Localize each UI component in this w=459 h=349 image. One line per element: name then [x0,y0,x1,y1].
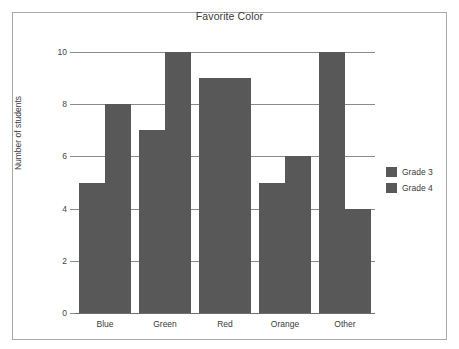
y-axis-tick-labels: 1086420 [33,52,67,313]
bar-other-grade-4 [345,209,371,313]
legend-label: Grade 4 [402,183,433,193]
y-axis-title: Number of students [13,48,23,218]
bar-blue-grade-4 [105,104,131,313]
bar-orange-grade-3 [259,183,285,314]
y-axis-tick-label-6: 6 [33,151,67,161]
y-axis-tick-label-10: 10 [33,47,67,57]
plot-area [75,52,375,313]
y-axis-tick-4 [70,209,75,210]
y-axis-tick-label-4: 4 [33,204,67,214]
x-axis-tick-label-blue: Blue [96,319,113,329]
bar-green-grade-4 [165,52,191,313]
bar-other-grade-3 [319,52,345,313]
legend-swatch-icon [386,167,397,177]
legend-item-grade-4[interactable]: Grade 4 [386,181,448,195]
bar-blue-grade-3 [79,183,105,314]
bar-orange-grade-4 [285,156,311,313]
x-axis-tick-label-green: Green [153,319,177,329]
bar-green-grade-3 [139,130,165,313]
y-axis-tick-10 [70,52,75,53]
x-axis-tick-label-orange: Orange [271,319,299,329]
y-axis-tick-8 [70,104,75,105]
x-axis-tick-label-red: Red [217,319,233,329]
legend-swatch-icon [386,183,397,193]
chart-legend: Grade 3Grade 4 [386,165,448,197]
x-axis-tick-label-other: Other [334,319,355,329]
y-axis-tick-label-8: 8 [33,99,67,109]
legend-label: Grade 3 [402,167,433,177]
bar-red-grade-4 [225,78,251,313]
y-axis-tick-label-0: 0 [33,308,67,318]
y-axis-tick-label-2: 2 [33,256,67,266]
legend-item-grade-3[interactable]: Grade 3 [386,165,448,179]
y-axis-tick-2 [70,261,75,262]
y-axis-tick-0 [70,313,75,314]
chart-title: Favorite Color [0,10,459,22]
x-axis-line [75,313,375,314]
bar-red-grade-3 [199,78,225,313]
y-axis-tick-6 [70,156,75,157]
